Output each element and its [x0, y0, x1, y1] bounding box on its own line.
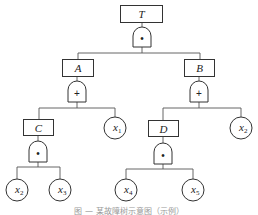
- figure-caption: 图 — 某故障树示意图（示例）: [74, 206, 183, 215]
- and-gate-D: •: [154, 143, 172, 164]
- event-T: T: [121, 6, 163, 23]
- and-gate-symbol: •: [161, 150, 165, 161]
- event-B: B: [185, 60, 215, 77]
- or-gate-A: +: [68, 81, 86, 102]
- and-gate-symbol: •: [36, 148, 40, 159]
- basic-event-x3: x3: [49, 179, 71, 201]
- event-A: A: [63, 60, 94, 77]
- basic-event-x4: x4: [115, 179, 137, 201]
- and-gate-symbol: •: [140, 33, 144, 44]
- and-gate-T: •: [133, 27, 151, 47]
- fault-tree-diagram: T • A + B + C • x1 D •: [0, 0, 258, 215]
- or-gate-symbol: +: [196, 88, 202, 99]
- event-D-label: D: [159, 123, 168, 135]
- and-gate-C: •: [29, 141, 47, 162]
- basic-event-x2-left: x2: [6, 179, 28, 201]
- or-gate-symbol: +: [74, 88, 80, 99]
- event-C-label: C: [35, 122, 43, 134]
- event-A-label: A: [74, 62, 82, 74]
- event-B-label: B: [196, 62, 203, 74]
- or-gate-B: +: [190, 81, 208, 102]
- basic-event-x5: x5: [182, 179, 204, 201]
- event-T-label: T: [138, 8, 145, 20]
- event-D: D: [149, 121, 179, 137]
- basic-event-x1: x1: [104, 117, 126, 139]
- basic-event-x2-right: x2: [230, 117, 252, 139]
- event-C: C: [24, 120, 54, 136]
